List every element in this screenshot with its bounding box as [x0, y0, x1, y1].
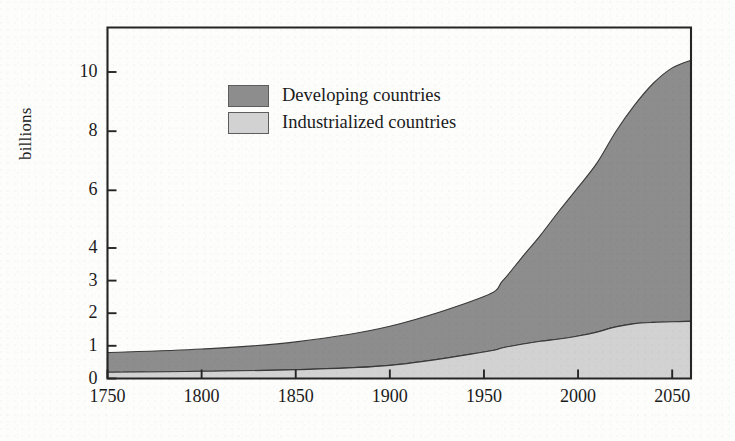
legend-label-developing: Developing countries [282, 86, 441, 105]
x-tick-label: 1850 [261, 387, 331, 405]
y-tick-label: 8 [52, 121, 98, 139]
chart-plot-area [0, 0, 735, 441]
y-tick-label: 2 [52, 303, 98, 321]
chart-legend: Developing countries Industrialized coun… [228, 82, 528, 136]
x-tick-label: 1900 [355, 387, 425, 405]
y-tick-label: 3 [52, 271, 98, 289]
y-axis-label: billions [16, 40, 36, 160]
x-tick-label: 1950 [449, 387, 519, 405]
y-tick-label: 0 [52, 369, 98, 387]
legend-swatch-developing [228, 85, 269, 107]
y-tick-label: 4 [52, 238, 98, 256]
y-tick-label: 6 [52, 180, 98, 198]
legend-label-industrialized: Industrialized countries [282, 113, 456, 132]
population-area-chart: billions 012346810 175018001850190019502… [0, 0, 735, 441]
legend-item-industrialized: Industrialized countries [228, 109, 528, 136]
legend-swatch-industrialized [228, 112, 269, 134]
x-tick-label: 2000 [543, 387, 613, 405]
x-tick-label: 1800 [167, 387, 237, 405]
y-tick-label: 1 [52, 336, 98, 354]
legend-item-developing: Developing countries [228, 82, 528, 109]
x-tick-label: 1750 [73, 387, 143, 405]
x-tick-label: 2050 [637, 387, 707, 405]
y-tick-label: 10 [52, 62, 98, 80]
